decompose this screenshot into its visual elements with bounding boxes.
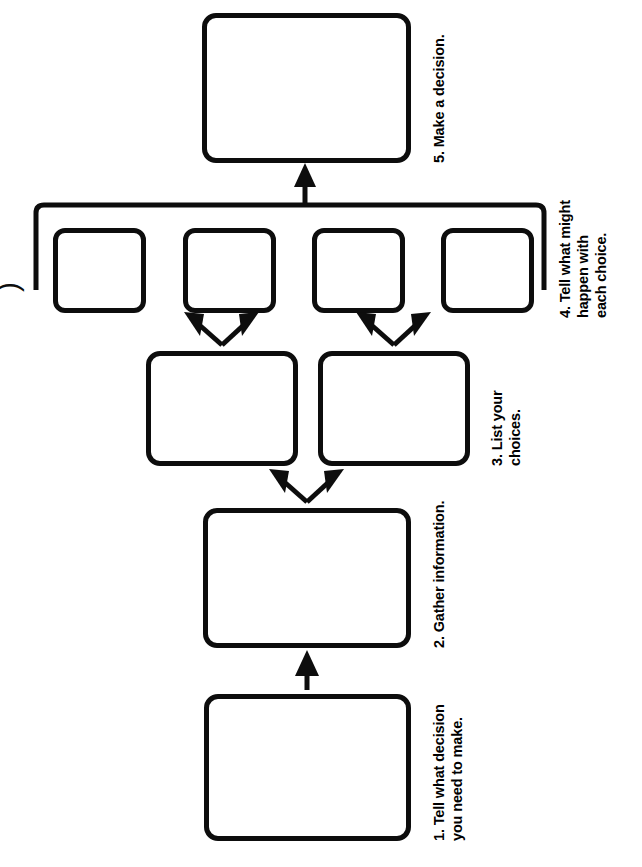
arrowhead-choice1 (269, 469, 289, 493)
step1-label: 1. Tell what decision you need to make. (430, 671, 466, 841)
step2-answer-box[interactable] (203, 508, 411, 648)
step5-label: 5. Make a decision. (430, 13, 448, 163)
arrowhead-outcome4 (411, 312, 431, 336)
step3-choice-box-2[interactable] (318, 351, 470, 466)
step2-label: 2. Gather information. (430, 488, 448, 648)
edge-cutoff-glyph: ) (0, 282, 25, 292)
step4-outcome-box-2[interactable] (183, 228, 276, 313)
step4-outcome-box-3[interactable] (312, 228, 405, 313)
arrowhead-outcome1 (184, 312, 204, 336)
arrowhead-outcome2 (239, 312, 259, 336)
arrow-step2-to-step3 (269, 469, 344, 502)
step3-label: 3. List your choices. (488, 326, 524, 466)
arrowhead-outcome3 (356, 312, 376, 336)
arrowhead-to-step2 (295, 650, 319, 676)
step4-label: 4. Tell what might happen with each choi… (556, 158, 610, 318)
arrow-choice1-to-outcomes (184, 312, 259, 345)
step4-outcome-box-1[interactable] (53, 228, 146, 313)
step1-answer-box[interactable] (204, 694, 411, 841)
arrow-step1-to-step2 (295, 650, 319, 690)
step5-answer-box[interactable] (202, 13, 411, 163)
step4-outcome-box-4[interactable] (441, 228, 534, 313)
step3-choice-box-1[interactable] (146, 351, 298, 466)
arrow-choice2-to-outcomes (356, 312, 431, 345)
arrowhead-to-step5 (294, 163, 316, 187)
arrowhead-choice2 (324, 469, 344, 493)
worksheet-page: ) 5. Make a decision. 4. Tell what might… (0, 0, 642, 867)
